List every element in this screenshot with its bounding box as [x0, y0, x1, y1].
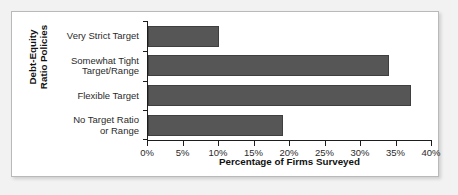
category-label-line: Very Strict Target: [21, 31, 139, 42]
x-axis-title: Percentage of Firms Surveyed: [147, 156, 432, 167]
category-label: Somewhat Tight Target/Range: [21, 55, 139, 76]
x-axis-tick: [431, 141, 432, 146]
bar-row: No Target Ratio or Range: [148, 115, 283, 136]
y-axis-tick: [143, 21, 147, 22]
category-label-line: Somewhat Tight: [21, 55, 139, 66]
chart-figure: Debt-Equity Ratio Policies Very Strict T…: [0, 0, 458, 195]
bar[interactable]: [148, 85, 411, 106]
y-axis-tick: [143, 139, 147, 140]
x-axis-tick: [183, 141, 184, 146]
y-axis-tick: [143, 110, 147, 111]
bar[interactable]: [148, 55, 389, 76]
bar[interactable]: [148, 115, 283, 136]
category-label: No Target Ratio or Range: [21, 115, 139, 136]
category-label-line: Target/Range: [21, 66, 139, 77]
bar[interactable]: [148, 26, 219, 47]
x-axis-tick: [254, 141, 255, 146]
category-label-line: or Range: [21, 125, 139, 136]
y-axis-tick: [143, 51, 147, 52]
x-axis-tick: [325, 141, 326, 146]
category-label: Flexible Target: [21, 90, 139, 101]
y-axis-tick: [143, 81, 147, 82]
x-axis-tick: [396, 141, 397, 146]
x-axis-tick: [147, 141, 148, 146]
plot-area: Very Strict Target Somewhat Tight Target…: [147, 21, 431, 140]
bar-row: Very Strict Target: [148, 26, 219, 47]
category-label-line: Flexible Target: [21, 90, 139, 101]
x-axis-tick: [289, 141, 290, 146]
x-axis-tick: [218, 141, 219, 146]
chart-panel: Debt-Equity Ratio Policies Very Strict T…: [11, 11, 439, 177]
category-label: Very Strict Target: [21, 31, 139, 42]
x-axis-tick: [360, 141, 361, 146]
bar-row: Flexible Target: [148, 85, 411, 106]
bar-row: Somewhat Tight Target/Range: [148, 55, 389, 76]
category-label-line: No Target Ratio: [21, 115, 139, 126]
